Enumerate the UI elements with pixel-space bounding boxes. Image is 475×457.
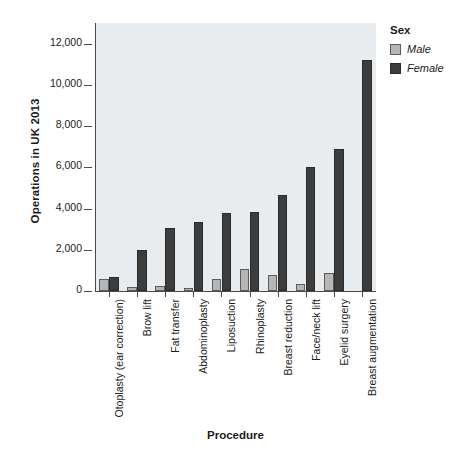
x-tick-label: Otoplasty (ear correction) (113, 169, 125, 299)
legend-label-female: Female (407, 62, 444, 74)
y-tick-mark (84, 291, 92, 292)
x-tick-label: Brow lift (141, 169, 153, 299)
y-tick-label: 4,000 (56, 201, 82, 213)
legend-item-female[interactable]: Female (390, 62, 475, 74)
x-tick-mark (278, 291, 279, 297)
x-tick-label: Eyelid surgery (338, 169, 350, 299)
x-tick-label: Fat transfer (169, 169, 181, 299)
legend-title: Sex (390, 24, 475, 36)
x-tick-label: Abdominoplasty (197, 169, 209, 299)
bar-male[interactable] (296, 284, 306, 291)
x-tick-mark (165, 291, 166, 297)
bar-male[interactable] (212, 279, 222, 291)
y-tick-mark (84, 85, 92, 86)
x-tick-mark (109, 291, 110, 297)
x-axis-title: Procedure (95, 429, 376, 441)
y-tick-mark (84, 167, 92, 168)
x-tick-label: Breast reduction (282, 169, 294, 299)
x-tick-mark (306, 291, 307, 297)
y-tick-mark (84, 250, 92, 251)
y-tick-mark (84, 126, 92, 127)
x-tick-label: Breast augmentation (366, 169, 378, 299)
x-tick-mark (250, 291, 251, 297)
x-tick-label: Liposuction (225, 169, 237, 299)
y-axis-title: Operations in UK 2013 (29, 56, 41, 266)
male-swatch-icon (390, 44, 401, 55)
x-tick-mark (334, 291, 335, 297)
bar-male[interactable] (99, 279, 109, 291)
legend-item-male[interactable]: Male (390, 43, 475, 55)
y-tick-label: 2,000 (56, 242, 82, 254)
chart-figure: Operations in UK 2013 02,0004,0006,0008,… (0, 0, 475, 457)
x-tick-mark (193, 291, 194, 297)
y-tick-mark (84, 44, 92, 45)
x-tick-label: Rhinoplasty (254, 169, 266, 299)
y-tick-label: 12,000 (50, 36, 82, 48)
x-tick-mark (137, 291, 138, 297)
bar-male[interactable] (268, 275, 278, 291)
x-tick-mark (221, 291, 222, 297)
y-tick-label: 10,000 (50, 77, 82, 89)
legend-label-male: Male (407, 43, 431, 55)
y-tick-label: 0 (76, 283, 82, 295)
female-swatch-icon (390, 63, 401, 74)
y-tick-mark (84, 209, 92, 210)
bar-male[interactable] (324, 273, 334, 291)
x-tick-label: Face/neck lift (310, 169, 322, 299)
legend: Sex Male Female (390, 24, 475, 81)
y-tick-label: 6,000 (56, 159, 82, 171)
x-tick-mark (362, 291, 363, 297)
bar-male[interactable] (155, 286, 165, 291)
bar-male[interactable] (240, 269, 250, 291)
y-tick-label: 8,000 (56, 118, 82, 130)
bar-male[interactable] (184, 288, 194, 291)
bar-male[interactable] (127, 287, 137, 291)
